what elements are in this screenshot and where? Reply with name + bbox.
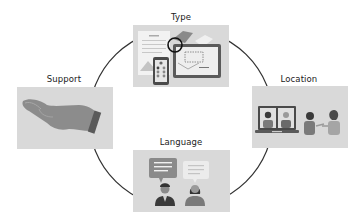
open-hand-icon — [17, 87, 113, 149]
video-call-in-person-icon — [252, 86, 348, 148]
node-label-type: Type — [131, 12, 231, 22]
node-label-language: Language — [131, 137, 231, 147]
node-panel-language — [133, 150, 230, 212]
node-panel-location — [252, 86, 348, 148]
node-label-location: Location — [249, 74, 349, 84]
node-label-support: Support — [14, 74, 114, 84]
documents-devices-icon — [133, 25, 229, 87]
speech-bubbles-people-icon — [133, 150, 230, 212]
node-panel-type — [133, 25, 229, 87]
node-panel-support — [17, 87, 113, 149]
